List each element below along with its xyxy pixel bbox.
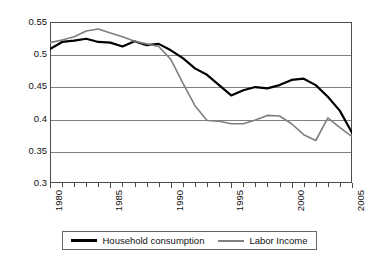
x-tick <box>255 183 256 187</box>
y-tick-label: 0.45 <box>29 82 48 92</box>
x-tick <box>316 183 317 187</box>
legend-entry[interactable]: Labor Income <box>218 236 307 246</box>
legend-entry[interactable]: Household consumption <box>71 236 204 246</box>
y-tick-label: 0.55 <box>29 17 48 27</box>
x-tick-label: 1990 <box>175 190 185 211</box>
x-tick <box>183 183 184 187</box>
x-tick-label: 2005 <box>356 190 366 211</box>
x-tick <box>50 183 51 188</box>
x-tick <box>304 183 305 187</box>
x-tick-label: 1985 <box>114 190 124 211</box>
x-tick <box>243 183 244 187</box>
y-tick-label: 0.4 <box>34 114 47 124</box>
legend-label: Household consumption <box>102 236 204 246</box>
x-tick-label: 1980 <box>54 190 64 211</box>
x-tick-label: 2000 <box>296 190 306 211</box>
y-axis: 0.30.350.40.450.50.55 <box>0 0 47 258</box>
x-tick <box>340 183 341 187</box>
series-line-household-consumption <box>50 39 352 133</box>
x-tick <box>195 183 196 187</box>
series-line-labor-income <box>50 29 352 140</box>
x-tick <box>267 183 268 187</box>
x-tick <box>74 183 75 187</box>
x-tick <box>135 183 136 187</box>
x-tick <box>219 183 220 187</box>
x-tick <box>98 183 99 187</box>
x-tick <box>62 183 63 187</box>
x-tick <box>159 183 160 187</box>
x-tick <box>231 183 232 188</box>
x-tick <box>147 183 148 187</box>
x-tick <box>352 183 353 188</box>
y-tick-label: 0.5 <box>34 49 47 59</box>
legend-swatch <box>71 239 97 242</box>
x-tick <box>207 183 208 187</box>
x-tick <box>328 183 329 187</box>
line-chart: 0.30.350.40.450.50.55 198019851990199520… <box>0 0 377 258</box>
x-tick-label: 1995 <box>235 190 245 211</box>
x-tick <box>86 183 87 187</box>
x-tick <box>122 183 123 187</box>
y-tick-label: 0.3 <box>34 178 47 188</box>
legend-swatch <box>218 240 244 242</box>
legend: Household consumptionLabor Income <box>62 231 317 250</box>
x-tick <box>171 183 172 188</box>
series-container <box>50 22 352 183</box>
y-tick-label: 0.35 <box>29 146 48 156</box>
x-tick <box>280 183 281 187</box>
x-tick <box>292 183 293 188</box>
legend-label: Labor Income <box>249 236 307 246</box>
x-tick <box>110 183 111 188</box>
